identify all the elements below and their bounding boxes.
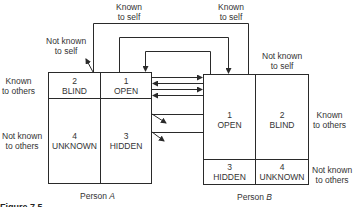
- figure-caption: Figure 7.5: [0, 202, 43, 207]
- wire-outer: [94, 24, 249, 75]
- person-a-not-known-to-others: Not known to others: [2, 131, 42, 151]
- person-a-cell-hidden: 3 HIDDEN: [101, 131, 151, 151]
- person-b-cell-open: 1 OPEN: [204, 110, 255, 130]
- wire-middle: [120, 38, 229, 74]
- person-a-cell-blind: 2 BLIND: [49, 76, 100, 96]
- label-known-to-self-left: Known to self: [116, 2, 142, 22]
- label-not-known-to-self-b: Not known to self: [262, 51, 302, 71]
- arrow-not-known-to-self: [86, 59, 93, 72]
- person-b-cell-hidden: 3 HIDDEN: [204, 162, 255, 182]
- label-known-to-self-right: Known to self: [218, 2, 244, 22]
- diagram-lines: [0, 0, 363, 207]
- person-a-cell-unknown: 4 UNKNOWN: [49, 131, 100, 151]
- person-b-not-known-to-others: Not known to others: [312, 165, 352, 185]
- person-b-known-to-others: Known to others: [313, 110, 346, 130]
- person-a-label: Person A: [80, 191, 115, 201]
- person-b-cell-blind: 2 BLIND: [256, 110, 308, 130]
- person-b-label: Person B: [237, 192, 272, 202]
- wire-inner: [146, 52, 211, 75]
- label-not-known-to-self-a: Not known to self: [46, 36, 86, 56]
- person-a-known-to-others: Known to others: [2, 76, 35, 96]
- person-a-cell-open: 1 OPEN: [101, 76, 151, 96]
- person-b-cell-unknown: 4 UNKNOWN: [256, 162, 308, 182]
